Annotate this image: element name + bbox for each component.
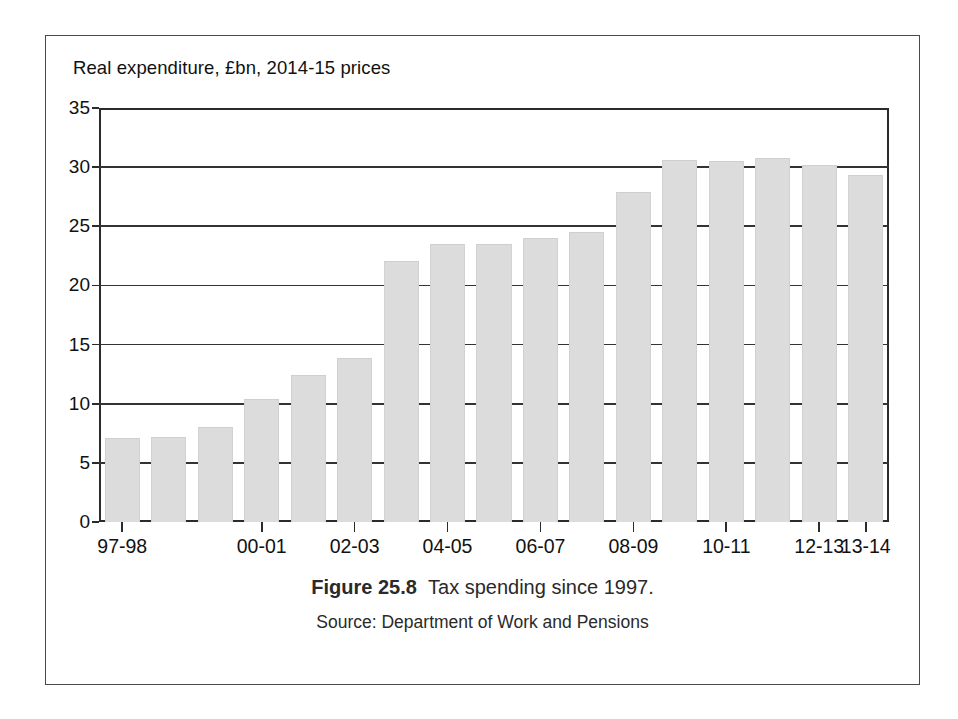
y-axis-tick-label: 25 [69, 215, 90, 237]
y-axis-tick-mark [92, 344, 99, 346]
bar-series [99, 108, 889, 522]
x-axis-tick-mark [354, 522, 356, 532]
figure-source: Source: Department of Work and Pensions [46, 612, 919, 633]
x-axis-tick-mark [447, 522, 449, 532]
bar [569, 232, 604, 522]
x-axis-tick-mark [865, 522, 867, 532]
x-axis-tick-mark [633, 522, 635, 532]
y-axis-tick-mark [92, 225, 99, 227]
x-axis-tick-mark [261, 522, 263, 532]
y-axis-tick-label: 0 [79, 511, 90, 533]
bar [709, 161, 744, 522]
y-axis-tick-mark [92, 462, 99, 464]
x-axis-tick-mark [818, 522, 820, 532]
x-axis-tick-mark [725, 522, 727, 532]
bar [755, 158, 790, 522]
y-axis-tick-label: 35 [69, 97, 90, 119]
x-axis-tick-mark [540, 522, 542, 532]
figure-frame: Real expenditure, £bn, 2014-15 prices 05… [45, 35, 920, 685]
bar [476, 244, 511, 522]
y-axis-tick-label: 5 [79, 452, 90, 474]
bar [430, 244, 465, 522]
bar [244, 399, 279, 522]
caption-block: Figure 25.8 Tax spending since 1997. Sou… [46, 576, 919, 633]
bar [848, 175, 883, 522]
x-axis-tick-label: 06-07 [516, 535, 566, 558]
bar [523, 238, 558, 522]
x-axis-tick-label: 12-13 [794, 535, 844, 558]
bar [662, 160, 697, 522]
y-axis-tick-label: 10 [69, 393, 90, 415]
x-axis-tick-label: 97-98 [97, 535, 147, 558]
x-axis-tick-label: 08-09 [608, 535, 658, 558]
figure-number: Figure 25.8 [311, 576, 417, 598]
figure-caption: Figure 25.8 Tax spending since 1997. [46, 576, 919, 599]
y-axis-tick-mark [92, 285, 99, 287]
y-axis-tick-mark [92, 403, 99, 405]
bar [616, 192, 651, 522]
x-axis-tick-label: 02-03 [330, 535, 380, 558]
x-axis-tick-mark [121, 522, 123, 532]
bar [802, 165, 837, 522]
y-axis-tick-label: 20 [69, 274, 90, 296]
x-axis-tick-label: 00-01 [237, 535, 287, 558]
bar [198, 427, 233, 522]
y-axis-tick-mark [92, 107, 99, 109]
x-axis-tick-label: 13-14 [841, 535, 891, 558]
y-axis-tick-label: 30 [69, 156, 90, 178]
plot-area: 05101520253035 97-9800-0102-0304-0506-07… [99, 108, 889, 522]
bar [105, 438, 140, 522]
y-axis-tick-mark [92, 166, 99, 168]
bar [337, 358, 372, 522]
y-axis-tick-mark [92, 521, 99, 523]
figure-caption-text: Tax spending since 1997. [417, 576, 654, 598]
chart-axis-title: Real expenditure, £bn, 2014-15 prices [73, 57, 390, 79]
x-axis-tick-label: 04-05 [423, 535, 473, 558]
y-axis-tick-label: 15 [69, 334, 90, 356]
bar [291, 375, 326, 522]
x-axis-tick-label: 10-11 [702, 535, 750, 558]
bar [384, 261, 419, 522]
bar [151, 437, 186, 522]
